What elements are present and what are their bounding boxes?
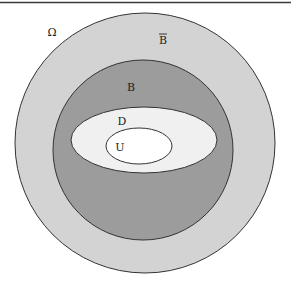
label-u: U — [115, 141, 124, 154]
diagram-svg: Ω B B D U — [0, 0, 291, 286]
set-diagram: Ω B B D U — [0, 0, 291, 286]
label-omega: Ω — [47, 26, 56, 39]
label-d: D — [118, 115, 127, 128]
label-b-complement: B — [159, 34, 167, 47]
label-b: B — [127, 81, 135, 94]
